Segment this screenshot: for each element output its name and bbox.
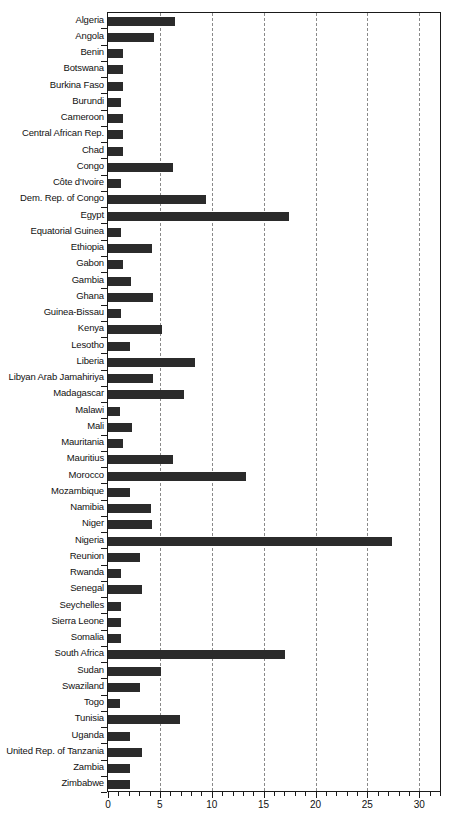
category-tick bbox=[101, 337, 107, 338]
category-tick bbox=[101, 256, 107, 257]
category-label: Mali bbox=[0, 421, 104, 431]
category-label: Sierra Leone bbox=[0, 616, 104, 626]
bar bbox=[108, 358, 195, 367]
x-tick-major bbox=[264, 792, 265, 798]
category-label: Tunisia bbox=[0, 713, 104, 723]
category-axis-labels: AlgeriaAngolaBeninBotswanaBurkina FasoBu… bbox=[0, 12, 104, 792]
category-tick bbox=[101, 240, 107, 241]
bar bbox=[108, 472, 246, 481]
x-tick-label: 15 bbox=[258, 799, 269, 810]
category-tick bbox=[101, 695, 107, 696]
bar-series bbox=[108, 13, 440, 791]
category-tick bbox=[101, 142, 107, 143]
bar-row bbox=[108, 679, 440, 695]
bar bbox=[108, 732, 130, 741]
bar bbox=[108, 488, 130, 497]
x-tick-minor bbox=[170, 792, 171, 796]
x-tick-minor bbox=[336, 792, 337, 796]
x-tick-minor bbox=[357, 792, 358, 796]
x-tick-major bbox=[367, 792, 368, 798]
x-tick-minor bbox=[284, 792, 285, 796]
bar bbox=[108, 244, 152, 253]
category-label: Guinea-Bissau bbox=[0, 307, 104, 317]
category-label: Morocco bbox=[0, 470, 104, 480]
bar-row bbox=[108, 728, 440, 744]
x-tick-minor bbox=[295, 792, 296, 796]
category-tick bbox=[101, 402, 107, 403]
x-tick-minor bbox=[409, 792, 410, 796]
bar bbox=[108, 650, 285, 659]
bar bbox=[108, 715, 180, 724]
x-tick-minor bbox=[118, 792, 119, 796]
category-tick bbox=[101, 77, 107, 78]
bar bbox=[108, 390, 184, 399]
x-tick-minor bbox=[139, 792, 140, 796]
category-tick bbox=[101, 516, 107, 517]
bar-row bbox=[108, 452, 440, 468]
category-label: Rwanda bbox=[0, 567, 104, 577]
category-label: United Rep. of Tanzania bbox=[0, 746, 104, 756]
category-label: Congo bbox=[0, 161, 104, 171]
bar bbox=[108, 585, 142, 594]
category-label: Somalia bbox=[0, 632, 104, 642]
x-tick-label: 10 bbox=[206, 799, 217, 810]
category-label: Mauritius bbox=[0, 453, 104, 463]
bar-row bbox=[108, 598, 440, 614]
bar-row bbox=[108, 289, 440, 305]
category-tick bbox=[101, 126, 107, 127]
x-tick-minor bbox=[440, 792, 441, 796]
category-tick bbox=[101, 467, 107, 468]
bar bbox=[108, 309, 121, 318]
bar bbox=[108, 293, 153, 302]
bar bbox=[108, 455, 173, 464]
bar-row bbox=[108, 777, 440, 793]
bar-row bbox=[108, 29, 440, 45]
category-tick bbox=[101, 776, 107, 777]
bar bbox=[108, 667, 161, 676]
x-tick-minor bbox=[191, 792, 192, 796]
x-tick-label: 20 bbox=[310, 799, 321, 810]
x-tick-minor bbox=[253, 792, 254, 796]
x-tick-minor bbox=[181, 792, 182, 796]
category-label: Burkina Faso bbox=[0, 80, 104, 90]
bar bbox=[108, 98, 121, 107]
bar-row bbox=[108, 517, 440, 533]
x-tick-major bbox=[108, 792, 109, 798]
category-label: Angola bbox=[0, 31, 104, 41]
x-tick-minor bbox=[326, 792, 327, 796]
bar bbox=[108, 683, 140, 692]
category-label: Zambia bbox=[0, 762, 104, 772]
bar bbox=[108, 82, 123, 91]
category-tick bbox=[101, 93, 107, 94]
category-tick bbox=[101, 207, 107, 208]
bar-row bbox=[108, 322, 440, 338]
bar bbox=[108, 277, 131, 286]
category-label: Namibia bbox=[0, 502, 104, 512]
bar bbox=[108, 114, 123, 123]
category-tick bbox=[101, 532, 107, 533]
category-label: Kenya bbox=[0, 323, 104, 333]
bar bbox=[108, 130, 123, 139]
bar-row bbox=[108, 647, 440, 663]
bar bbox=[108, 764, 130, 773]
bar bbox=[108, 780, 130, 789]
bar-row bbox=[108, 241, 440, 257]
bar-row bbox=[108, 127, 440, 143]
category-tick bbox=[101, 158, 107, 159]
category-label: Mauritania bbox=[0, 437, 104, 447]
category-label: Benin bbox=[0, 47, 104, 57]
category-label: Zimbabwe bbox=[0, 778, 104, 788]
x-tick-major bbox=[316, 792, 317, 798]
bar-row bbox=[108, 111, 440, 127]
category-label: Sudan bbox=[0, 665, 104, 675]
category-label: Dem. Rep. of Congo bbox=[0, 193, 104, 203]
bar bbox=[108, 439, 123, 448]
category-label: Burundi bbox=[0, 96, 104, 106]
category-label: Liberia bbox=[0, 356, 104, 366]
x-tick-minor bbox=[305, 792, 306, 796]
category-tick bbox=[101, 743, 107, 744]
category-label: Swaziland bbox=[0, 681, 104, 691]
bar-row bbox=[108, 46, 440, 62]
category-label: Senegal bbox=[0, 583, 104, 593]
x-tick-minor bbox=[222, 792, 223, 796]
